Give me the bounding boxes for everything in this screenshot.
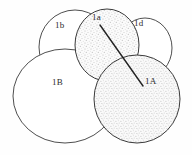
- cell-label-1b: 1b: [55, 20, 64, 30]
- figure-canvas: 1b 1a 1d 1B 1A: [0, 0, 192, 155]
- cell-outline-1A: [94, 55, 180, 143]
- cell-label-1a: 1a: [92, 12, 101, 22]
- cell-label-1d: 1d: [134, 18, 143, 28]
- diagram-svg: [0, 0, 192, 155]
- cell-label-1B: 1B: [52, 77, 63, 87]
- cell-label-1A: 1A: [145, 76, 156, 86]
